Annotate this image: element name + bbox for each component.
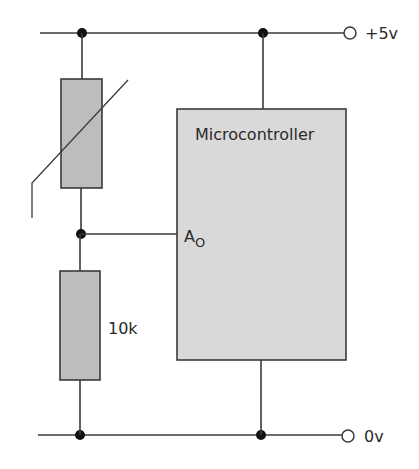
circuit-diagram: +5v 0v 10k Microcontroller AO — [0, 0, 419, 469]
microcontroller: Microcontroller AO — [177, 33, 346, 435]
thermistor — [32, 33, 128, 234]
label-ground-supply: 0v — [364, 427, 384, 446]
terminal-positive-icon — [344, 27, 356, 39]
analog-input-letter: A — [184, 227, 195, 246]
label-positive-supply: +5v — [365, 24, 398, 43]
label-microcontroller: Microcontroller — [195, 125, 315, 144]
thermistor-body — [61, 79, 102, 188]
divider-node — [76, 229, 177, 239]
terminal-ground-icon — [342, 430, 354, 442]
fixed-resistor: 10k — [60, 234, 138, 435]
positive-rail: +5v — [40, 24, 398, 43]
analog-input-subscript: O — [195, 235, 205, 250]
resistor-body — [60, 271, 100, 380]
ground-rail: 0v — [38, 427, 384, 446]
label-resistor-value: 10k — [108, 319, 138, 338]
